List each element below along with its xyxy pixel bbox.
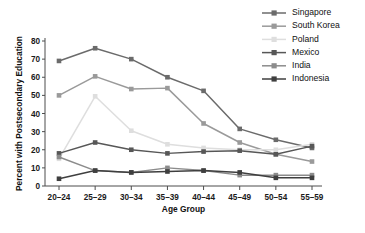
data-point-south-korea-3 [165,86,170,91]
y-tick-label: 80 [31,37,41,46]
data-point-singapore-1 [93,46,98,51]
legend-swatch-marker-india [272,63,277,68]
data-point-india-0 [57,155,62,160]
chart-canvas: 0102030405060708020–2425–2930–3435–3940–… [0,0,365,233]
data-point-south-korea-0 [57,93,62,98]
y-tick-label: 10 [31,164,41,173]
y-tick-label: 70 [31,55,41,64]
legend-swatch-marker-singapore [272,10,277,15]
x-tick-label: 30–34 [120,193,143,202]
data-point-poland-3 [165,142,170,147]
legend-swatch-marker-south-korea [272,24,277,29]
legend-label-india[interactable]: India [292,60,311,70]
data-point-indonesia-1 [93,168,98,173]
data-point-indonesia-3 [165,169,170,174]
data-point-indonesia-0 [57,176,62,181]
data-point-mexico-5 [237,148,242,153]
data-point-indonesia-7 [310,176,315,181]
data-point-south-korea-5 [237,140,242,145]
data-point-south-korea-7 [310,159,315,164]
y-tick-label: 20 [31,146,41,155]
y-tick-label: 0 [35,182,40,191]
y-axis-title: Percent with Postsecondary Education [14,36,24,191]
legend-label-mexico[interactable]: Mexico [292,47,319,57]
data-point-singapore-4 [201,89,206,94]
data-point-poland-2 [129,128,134,133]
data-point-indonesia-5 [237,170,242,175]
legend-swatch-marker-poland [272,37,277,42]
data-point-singapore-3 [165,75,170,80]
data-point-south-korea-2 [129,87,134,92]
data-point-singapore-2 [129,57,134,62]
legend-label-poland[interactable]: Poland [292,34,319,44]
data-point-poland-1 [93,94,98,99]
legend-swatch-marker-indonesia [272,76,277,81]
x-tick-label: 45–49 [228,193,251,202]
data-point-singapore-6 [274,137,279,142]
data-point-indonesia-4 [201,168,206,173]
line-chart: 0102030405060708020–2425–2930–3435–3940–… [0,0,365,233]
x-tick-label: 25–29 [84,193,107,202]
data-point-singapore-0 [57,59,62,64]
data-point-indonesia-2 [129,170,134,175]
data-point-south-korea-4 [201,121,206,126]
data-point-south-korea-1 [93,74,98,79]
legend-label-south-korea[interactable]: South Korea [292,20,340,30]
data-point-mexico-1 [93,140,98,145]
y-tick-label: 40 [31,110,41,119]
y-tick-label: 30 [31,128,41,137]
data-point-mexico-3 [165,151,170,156]
data-point-mexico-2 [129,147,134,152]
data-point-mexico-4 [201,149,206,154]
data-point-indonesia-6 [274,176,279,181]
y-tick-label: 60 [31,73,41,82]
data-point-singapore-5 [237,127,242,132]
x-tick-label: 20–24 [48,193,71,202]
legend-swatch-marker-mexico [272,50,277,55]
data-point-poland-6 [274,147,279,152]
legend-label-singapore[interactable]: Singapore [292,7,331,17]
x-tick-label: 40–44 [192,193,215,202]
legend-label-indonesia[interactable]: Indonesia [292,73,329,83]
x-tick-label: 35–39 [156,193,179,202]
y-tick-label: 50 [31,91,41,100]
data-point-mexico-6 [274,152,279,157]
x-tick-label: 55–59 [301,193,324,202]
data-point-mexico-7 [310,144,315,149]
x-axis-title: Age Group [162,204,205,214]
x-tick-label: 50–54 [264,193,287,202]
